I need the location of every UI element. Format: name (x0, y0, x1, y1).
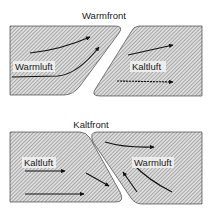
kaltfront-title: Kaltfront (73, 119, 109, 130)
front-diagram: Warmfront Warmluft Kaltluft Kaltfront (0, 0, 208, 211)
kaltfront-right-label: Warmluft (134, 157, 172, 168)
kaltfront-left-label: Kaltluft (24, 157, 53, 168)
warmfront-right-label: Kaltluft (132, 61, 161, 72)
warmfront-panel: Warmfront Warmluft Kaltluft (10, 10, 202, 96)
kaltfront-panel: Kaltfront Kaltluft Warmluft (10, 119, 202, 204)
warmfront-title: Warmfront (82, 10, 126, 21)
warmfront-left-label: Warmluft (15, 61, 53, 72)
